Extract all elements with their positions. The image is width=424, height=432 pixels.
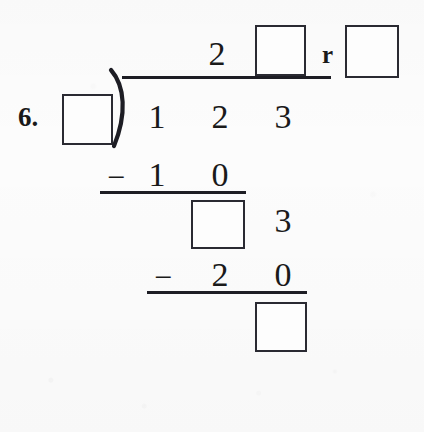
final-remainder-answer-box[interactable] xyxy=(255,302,307,352)
second-subtraction-digit-2: 0 xyxy=(266,258,300,292)
first-subtraction-minus-sign: − xyxy=(103,161,129,193)
divisor-answer-box[interactable] xyxy=(62,94,113,145)
dividend-digit-3: 3 xyxy=(266,100,300,134)
quotient-answer-box[interactable] xyxy=(255,25,306,76)
division-vinculum xyxy=(122,76,331,79)
problem-number-label: 6. xyxy=(18,104,38,131)
first-difference-answer-box[interactable] xyxy=(191,200,245,249)
dividend-digit-2: 2 xyxy=(203,100,237,134)
first-subtraction-digit-1: 1 xyxy=(140,158,174,192)
dividend-digit-1: 1 xyxy=(140,100,174,134)
first-subtraction-rule xyxy=(100,191,246,194)
second-subtraction-minus-sign: − xyxy=(150,261,176,293)
first-subtraction-digit-2: 0 xyxy=(203,158,237,192)
worksheet-page: 6. 2 r 1 2 3 − 1 0 3 − 2 0 xyxy=(0,0,424,432)
brought-down-digit: 3 xyxy=(266,204,300,238)
second-subtraction-rule xyxy=(147,291,307,294)
second-subtraction-digit-1: 2 xyxy=(203,258,237,292)
quotient-digit-known: 2 xyxy=(200,37,234,71)
remainder-answer-box[interactable] xyxy=(345,25,399,78)
remainder-label: r xyxy=(322,42,333,67)
